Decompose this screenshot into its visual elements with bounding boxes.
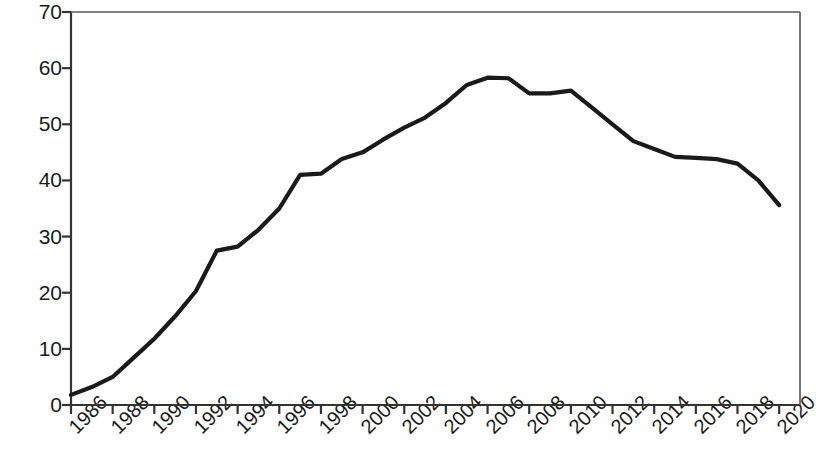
x-axis-tickmarks	[71, 405, 779, 414]
axis-lines	[71, 12, 800, 405]
y-axis-tickmarks	[62, 12, 71, 405]
data-series-line	[71, 78, 779, 395]
